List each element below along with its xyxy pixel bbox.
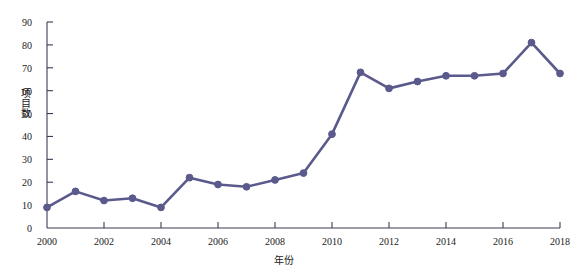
data-line [47,43,560,208]
data-point [215,181,222,188]
data-point [557,70,564,77]
data-point [300,170,307,177]
data-point [44,204,51,211]
data-point [186,174,193,181]
data-point [272,177,279,184]
data-point [500,70,507,77]
plot-area [0,0,573,275]
data-point [243,183,250,190]
data-point [329,131,336,138]
data-point [129,195,136,202]
data-point [528,39,535,46]
data-point [357,69,364,76]
data-point [471,72,478,79]
data-point [386,85,393,92]
data-point [72,188,79,195]
data-point [443,72,450,79]
data-point [101,197,108,204]
line-chart: 项目数 年份 0102030405060708090 2000200220042… [0,0,573,275]
data-point [158,204,165,211]
data-point [414,78,421,85]
